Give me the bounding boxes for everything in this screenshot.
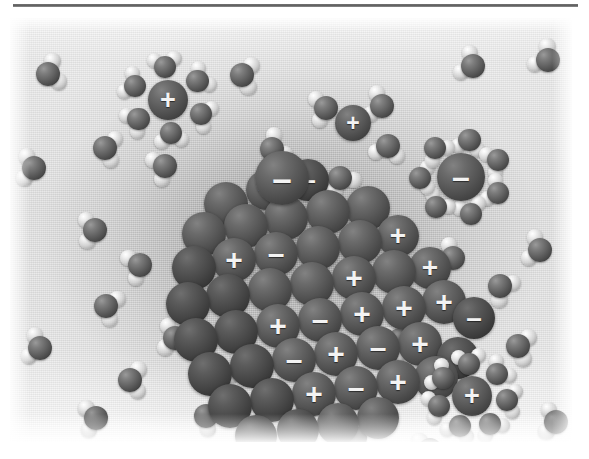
free-cation [335, 105, 371, 141]
oxygen-atom [28, 336, 52, 360]
horizontal-rule [13, 4, 578, 7]
oxygen-atom [36, 62, 60, 86]
oxygen-atom [190, 103, 212, 125]
oxygen-atom [449, 415, 471, 437]
oxygen-atom [93, 136, 117, 160]
oxygen-atom [458, 353, 480, 375]
hydrated-anion [437, 153, 485, 201]
oxygen-atom [496, 389, 518, 411]
oxygen-atom [314, 96, 338, 120]
figure-page: –++–++++++––++–+––+–+ –+ +–+ [0, 0, 589, 459]
dissolution-illustration: –++–++++++––++–+––+–+ –+ +–+ [10, 18, 572, 442]
oxygen-atom [487, 149, 509, 171]
lattice-anion [453, 297, 495, 339]
oxygen-atom [230, 63, 254, 87]
oxygen-atom [154, 56, 176, 78]
lattice-ion [357, 397, 399, 439]
oxygen-atom [428, 395, 450, 417]
oxygen-atom [94, 294, 118, 318]
oxygen-atom [544, 410, 568, 434]
oxygen-atom [128, 253, 152, 277]
oxygen-atom [536, 48, 560, 72]
oxygen-atom [487, 182, 509, 204]
oxygen-atom [461, 54, 485, 78]
oxygen-atom [409, 167, 431, 189]
lattice-ion [317, 403, 359, 442]
oxygen-atom [479, 413, 501, 435]
oxygen-atom [22, 156, 46, 180]
oxygen-atom [528, 238, 552, 262]
oxygen-atom [127, 108, 149, 130]
oxygen-atom [432, 367, 454, 389]
oxygen-atom [376, 134, 400, 158]
oxygen-atom [424, 137, 446, 159]
oxygen-atom [460, 203, 482, 225]
oxygen-atom [83, 218, 107, 242]
oxygen-atom [425, 196, 447, 218]
hydrated-cation [452, 376, 492, 416]
oxygen-atom [118, 368, 142, 392]
hydrated-cation [148, 80, 188, 120]
oxygen-atom [153, 154, 177, 178]
free-anion [255, 151, 309, 205]
oxygen-atom [370, 94, 394, 118]
oxygen-atom [186, 70, 208, 92]
oxygen-atom [458, 129, 480, 151]
oxygen-atom [84, 406, 108, 430]
